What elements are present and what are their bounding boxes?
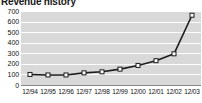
x-axis: 12/9412/9512/9612/9712/9812/9912/0012/01…: [0, 88, 202, 100]
x-axis-tick-label: 12/01: [148, 88, 164, 96]
x-axis-tick-label: 12/94: [22, 88, 38, 96]
y-axis-tick-label: 500: [0, 29, 19, 36]
gridline: [21, 64, 201, 65]
gridline: [21, 43, 201, 44]
x-axis-line: [21, 85, 201, 86]
gridline: [21, 22, 201, 23]
y-axis-tick-label: 400: [0, 39, 19, 46]
y-axis-tick-label: 100: [0, 71, 19, 78]
gridline: [21, 11, 201, 12]
x-axis-tick-label: 12/99: [112, 88, 128, 96]
x-axis-tick-label: 12/98: [94, 88, 110, 96]
x-axis-tick-label: 12/00: [130, 88, 146, 96]
gridline: [21, 74, 201, 75]
gridline: [21, 32, 201, 33]
plot-area: [21, 11, 201, 85]
y-axis: 7006005004003002001000: [0, 6, 19, 90]
x-axis-tick-label: 12/03: [184, 88, 200, 96]
x-axis-tick-label: 12/02: [166, 88, 182, 96]
x-axis-tick-label: 12/97: [76, 88, 92, 96]
y-axis-tick-label: 700: [0, 8, 19, 15]
y-axis-tick-label: 200: [0, 60, 19, 67]
y-axis-tick-label: 600: [0, 18, 19, 25]
gridline: [21, 53, 201, 54]
revenue-history-chart: Revenue history 7006005004003002001000 1…: [0, 0, 202, 103]
x-axis-tick-label: 12/96: [58, 88, 74, 96]
x-axis-tick-label: 12/95: [40, 88, 56, 96]
y-axis-tick-label: 300: [0, 50, 19, 57]
